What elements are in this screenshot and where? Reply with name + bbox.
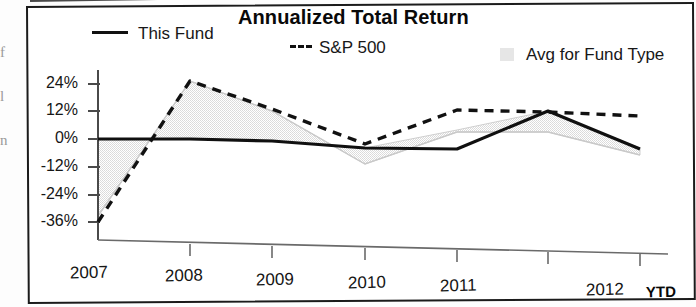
legend-label-sp500: S&P 500	[319, 38, 386, 57]
legend-label-avg-for-fund-type: Avg for Fund Type	[526, 45, 664, 64]
x-tick-label-2008: 2008	[165, 266, 203, 287]
legend-item-sp500: S&P 500	[290, 38, 386, 58]
y-tick-label-24: 24%	[18, 74, 78, 92]
x-tick-label-2010: 2010	[348, 273, 386, 294]
chart-title: Annualized Total Return	[238, 6, 469, 29]
x-tick-label-ytd: YTD	[646, 283, 676, 301]
y-tick-label-neg36: -36%	[18, 212, 78, 230]
y-tick-label-12: 12%	[18, 101, 78, 119]
plot-area: Annualized Total Return This Fund S&P 50…	[0, 0, 696, 307]
area-swatch-icon	[500, 48, 514, 61]
y-tick-label-0: 0%	[18, 129, 78, 147]
legend-label-this-fund: This Fund	[138, 24, 214, 43]
x-tick-label-2007: 2007	[70, 263, 108, 284]
dashed-line-swatch-icon	[290, 45, 312, 48]
x-tick-label-2011: 2011	[440, 276, 477, 297]
legend-item-this-fund: This Fund	[92, 24, 214, 44]
x-tick-label-2012: 2012	[586, 280, 624, 301]
chart-page: f l n	[0, 0, 696, 307]
y-tick-label-neg12: -12%	[18, 157, 78, 175]
solid-line-swatch-icon	[92, 31, 128, 34]
y-tick-label-neg24: -24%	[18, 185, 78, 203]
x-axis-line	[98, 240, 668, 254]
legend-item-avg-for-fund-type: Avg for Fund Type	[500, 45, 664, 65]
x-tick-label-2009: 2009	[256, 270, 294, 291]
